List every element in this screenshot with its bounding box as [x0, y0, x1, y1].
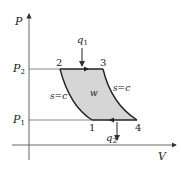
right-isentrope-label: s=c — [113, 84, 130, 93]
cycle-area — [60, 69, 137, 120]
x-axis-label: V — [158, 151, 166, 162]
y-axis-label: P — [15, 16, 22, 27]
pv-diagram — [0, 0, 181, 169]
p1-label: P1 — [13, 114, 25, 127]
point-2-label: 2 — [56, 58, 62, 68]
point-4-label: 4 — [135, 123, 141, 133]
heat-in-label: q1 — [77, 35, 88, 47]
p2-label: P2 — [13, 63, 25, 76]
work-label: w — [90, 89, 98, 98]
point-3-label: 3 — [100, 58, 106, 68]
heat-out-label: q2 — [106, 133, 117, 145]
left-isentrope-label: s=c — [50, 92, 67, 101]
point-1-label: 1 — [89, 123, 95, 133]
